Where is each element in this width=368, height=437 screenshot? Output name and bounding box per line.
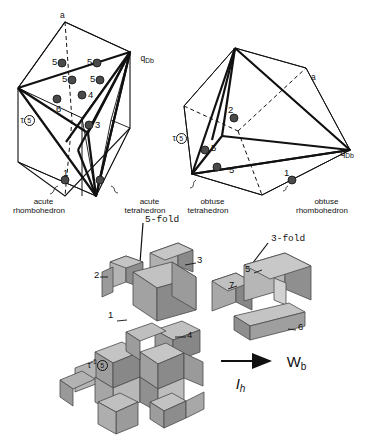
left-node-1: 1 bbox=[63, 168, 68, 177]
left-node-4: 4 bbox=[88, 90, 93, 99]
wb-label: Wb bbox=[270, 348, 306, 380]
piece-label-5: 5 bbox=[245, 264, 250, 273]
bottom-tau-inverse-label: τ-15 bbox=[78, 348, 108, 380]
left-node-5c: 5 bbox=[62, 74, 67, 83]
five-fold-axis-label: 5-fold bbox=[145, 215, 179, 224]
left-vertex-a-label: a bbox=[60, 11, 65, 20]
piece-label-6: 6 bbox=[298, 322, 303, 331]
left-node-5b: 5 bbox=[87, 57, 92, 66]
piece-label-4: 4 bbox=[187, 330, 192, 339]
three-fold-axis-label: 3-fold bbox=[271, 234, 305, 243]
piece-label-2: 2 bbox=[94, 270, 99, 279]
ih-label: Ih bbox=[219, 370, 245, 402]
left-tau-label: τ5 bbox=[11, 106, 35, 135]
left-node-3: 3 bbox=[95, 120, 100, 129]
right-node-1: 1 bbox=[284, 168, 289, 177]
right-obtuse-tetrahedron-edges bbox=[192, 48, 350, 174]
left-node-5a: 5 bbox=[52, 57, 57, 66]
piece-label-3: 3 bbox=[197, 255, 202, 264]
obtuse-tetrahedron-caption: obtusetetrahedron bbox=[178, 188, 238, 224]
right-tau-label: τ5 bbox=[163, 124, 187, 153]
obtuse-rhombohedron-caption: obtuserhombohedron bbox=[286, 188, 358, 224]
right-node-5a: 5 bbox=[211, 143, 216, 152]
piece-label-7: 7 bbox=[229, 280, 234, 289]
left-node-5d: 5 bbox=[90, 74, 95, 83]
right-vertex-a-label: a bbox=[311, 73, 316, 82]
right-node-5b: 5 bbox=[229, 165, 234, 174]
acute-rhombohedron-caption: acuterhombohedron bbox=[6, 188, 72, 224]
piece-label-1: 1 bbox=[108, 310, 113, 319]
right-vertex-q-label: qDb bbox=[331, 140, 354, 169]
right-node-2: 2 bbox=[228, 105, 233, 114]
left-vertex-q-label: qDb bbox=[131, 45, 154, 74]
left-node-6: 6 bbox=[56, 104, 61, 113]
figure-canvas: a qDb τ5 5 5 5 5 6 4 3 1 acuterhombohedr… bbox=[0, 0, 368, 437]
